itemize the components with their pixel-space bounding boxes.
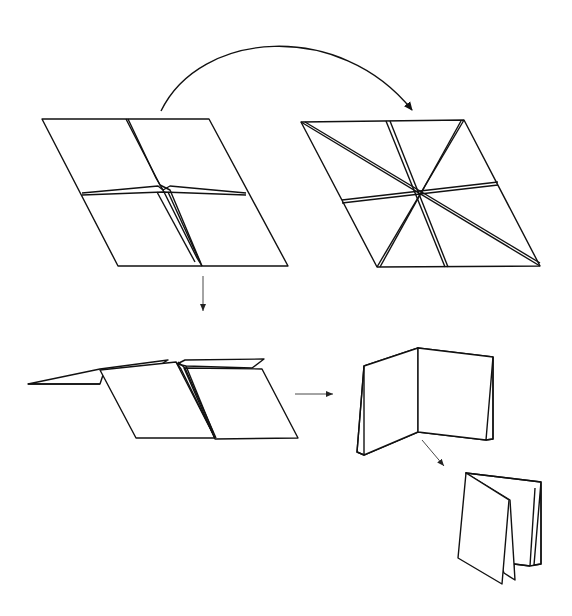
folding-diagram	[0, 0, 572, 616]
step-1-square	[42, 119, 288, 266]
step-4-open-book	[357, 348, 493, 455]
step-2-square	[301, 120, 540, 267]
diagonal-arrow	[422, 440, 444, 466]
curved-arrow	[161, 46, 412, 111]
step-5-booklet	[458, 473, 541, 584]
step-3-folded-flaps	[28, 359, 298, 439]
